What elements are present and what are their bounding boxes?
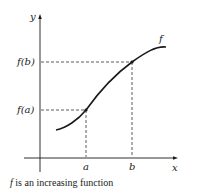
curve-label: f <box>158 33 165 44</box>
point-a <box>84 108 87 111</box>
x-axis-arrow-icon <box>173 156 178 160</box>
caption: f is an increasing function <box>10 177 113 188</box>
caption-text: is an increasing function <box>13 177 114 188</box>
y-axis-arrow-icon <box>38 14 42 19</box>
b-label: b <box>129 161 135 172</box>
x-axis-label: x <box>172 162 178 173</box>
fa-label: f(a) <box>16 104 35 115</box>
a-label: a <box>83 161 89 172</box>
fb-label: f(b) <box>16 56 35 67</box>
y-axis-label: y <box>29 11 36 22</box>
point-b <box>130 60 133 63</box>
function-curve <box>56 47 166 130</box>
increasing-function-diagram: y x f f(b) f(a) a b f is an increasing f… <box>0 0 198 191</box>
